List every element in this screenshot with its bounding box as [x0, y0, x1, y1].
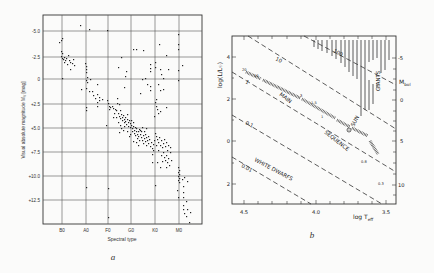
sun-dot-icon: [348, 129, 349, 130]
a-xtick: B0: [59, 228, 65, 233]
a-ytick: +2.5: [31, 102, 41, 107]
b-ytick: 2: [227, 96, 230, 102]
mass-1.5: 1.5: [311, 101, 317, 105]
figure: -5.0 -2.5 0 +2.5 +5.0 +7.5 +10.0 +12.5 B…: [0, 0, 434, 273]
panel-a-frame: [43, 15, 202, 224]
a-ytick: -2.5: [32, 55, 40, 60]
b-ytick: 2: [227, 181, 230, 187]
panel-b-xticks-marks: [232, 36, 396, 204]
panel-b-yticks: 4 2 0 2: [227, 54, 231, 187]
b-y2tick: 10: [398, 182, 405, 188]
mass-20: 20: [242, 68, 247, 72]
a-ytick: +7.5: [31, 150, 41, 155]
b-y2tick: -5: [398, 55, 403, 61]
label-white-dwarfs: WHITE DWARFS: [254, 157, 295, 182]
b-ytick: 0: [227, 138, 230, 144]
a-xlabel: Spectral type: [107, 236, 136, 242]
a-xtick: G0: [128, 228, 135, 233]
panel-a-chart: -5.0 -2.5 0 +2.5 +5.0 +7.5 +10.0 +12.5 B…: [21, 15, 202, 262]
mass-0.8: 0.8: [361, 160, 367, 164]
mass-labels: 20 10 3 1.5 1 0.8 0.3: [242, 68, 384, 186]
a-ytick: +12.5: [28, 198, 40, 203]
label-r1: 1: [245, 79, 251, 86]
panel-a-vgrid: [62, 15, 179, 224]
panel-a-scatter-points: [59, 25, 191, 223]
a-ytick: 0: [37, 77, 40, 82]
b-y2tick: 0: [400, 97, 403, 103]
label-r001: 0.01: [241, 163, 254, 174]
label-sun: SUN: [350, 115, 361, 128]
a-xtick: M0: [176, 228, 183, 233]
a-ytick: -5.0: [32, 29, 40, 34]
b-y2label: Mbol: [399, 78, 411, 87]
mass-3: 3: [300, 94, 302, 98]
panel-a-hgrid: [43, 31, 202, 200]
radius-lines: [232, 36, 396, 204]
b-xlabel: log Teff: [353, 213, 373, 222]
label-r10: 10: [275, 56, 284, 64]
b-ylabel: log(L/L☉): [216, 62, 224, 88]
b-xtick: 3.5: [382, 209, 390, 215]
panel-b-caption: b: [310, 230, 315, 240]
b-xtick: 4.5: [240, 209, 248, 215]
b-y2tick: 5: [400, 138, 403, 144]
mass-0.3: 0.3: [378, 182, 384, 186]
a-xtick: A0: [83, 228, 89, 233]
mass-10: 10: [254, 74, 259, 78]
panel-b-chart: 100 10 1 0.1 0.01 WHITE DWARFS MAIN SEQU…: [216, 36, 411, 240]
a-ylabel: Visual absolute magnitude MV [mag]: [21, 81, 27, 158]
label-sequence: SEQUENCE: [323, 129, 351, 152]
a-ytick: +10.0: [28, 174, 40, 179]
a-ytick: +5.0: [31, 126, 41, 131]
a-xtick: F0: [105, 228, 111, 233]
panel-a-yticks: -5.0 -2.5 0 +2.5 +5.0 +7.5 +10.0 +12.5: [28, 29, 40, 203]
label-main: MAIN: [278, 91, 293, 104]
panel-a-xticks: B0 A0 F0 G0 K0 M0: [59, 228, 182, 233]
mass-1: 1: [321, 115, 323, 119]
main-sequence-band: [246, 72, 378, 154]
b-ytick: 4: [227, 54, 231, 60]
panel-b-y2ticks: -5 0 5 10: [398, 55, 405, 188]
label-giants: GIANTS: [375, 70, 381, 91]
b-xtick: 4.0: [312, 209, 320, 215]
a-xtick: K0: [152, 228, 158, 233]
panel-b-frame: [232, 36, 396, 204]
panel-a-caption: a: [111, 252, 116, 262]
